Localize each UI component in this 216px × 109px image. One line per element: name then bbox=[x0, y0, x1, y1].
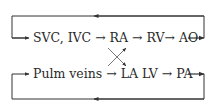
cross-arrows bbox=[108, 48, 126, 66]
circulation-diagram: SVC, IVC → RA → RV→ AO Pulm veins → LA L… bbox=[0, 0, 216, 109]
systemic-flow-row: SVC, IVC → RA → RV→ AO bbox=[33, 31, 198, 45]
diagram-lines bbox=[0, 0, 216, 109]
pulmonary-flow-row: Pulm veins → LA LV → PA bbox=[33, 67, 193, 81]
